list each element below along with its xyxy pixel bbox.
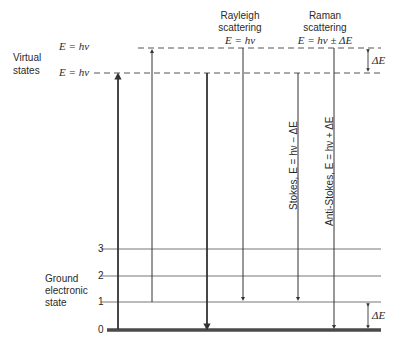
ground-state-line2: electronic <box>45 285 88 297</box>
raman-header: Raman scattering E = hν ± ΔE <box>280 10 370 46</box>
ground-state-line3: state <box>45 297 88 309</box>
upper-virtual-energy-label: E = hν <box>59 41 89 52</box>
rayleigh-title-line2: scattering <box>200 22 280 34</box>
delta-e-top-label: ΔE <box>372 55 385 66</box>
raman-title-line2: scattering <box>280 22 370 34</box>
rayleigh-title-line1: Rayleigh <box>200 10 280 22</box>
virtual-states-line1: Virtual <box>13 51 41 64</box>
level-0-label: 0 <box>98 324 104 335</box>
virtual-states-line2: states <box>13 64 41 77</box>
rayleigh-header: Rayleigh scattering E = hν <box>200 10 280 46</box>
raman-formula: E = hν ± ΔE <box>280 34 370 46</box>
ground-state-label: Ground electronic state <box>45 273 88 309</box>
lower-virtual-energy-label: E = hν <box>59 67 89 78</box>
raman-title-line1: Raman <box>280 10 370 22</box>
stokes-label: Stokes, E = hν − ΔE <box>288 121 299 210</box>
level-2-label: 2 <box>98 270 104 281</box>
virtual-states-label: Virtual states <box>13 51 41 77</box>
delta-e-bottom-label: ΔE <box>372 310 385 321</box>
level-1-label: 1 <box>98 296 104 307</box>
anti-stokes-label: Anti-Stokes, E = hν + ΔE <box>324 116 335 226</box>
level-3-label: 3 <box>98 243 104 254</box>
rayleigh-formula: E = hν <box>200 34 280 46</box>
ground-state-line1: Ground <box>45 273 88 285</box>
